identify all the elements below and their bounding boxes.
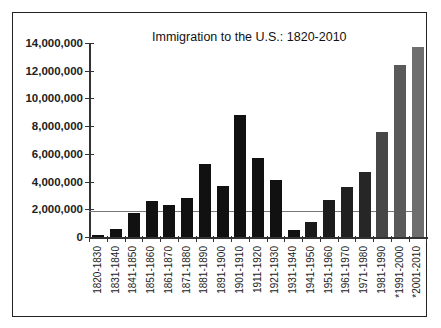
x-tick (196, 236, 197, 242)
x-tick-label: *2001-2010 (411, 246, 422, 298)
x-tick (302, 236, 303, 242)
bar-1931-1940 (288, 230, 300, 237)
y-tick-label: 0 (77, 231, 83, 243)
x-tick-label: 1881-1890 (198, 246, 209, 294)
x-tick (338, 236, 339, 242)
x-tick-label: 1941-1950 (305, 246, 316, 294)
y-tick (85, 126, 94, 127)
x-axis (89, 237, 428, 239)
y-tick-label: 14,000,000 (25, 37, 83, 49)
x-tick (142, 236, 143, 242)
x-tick (391, 236, 392, 242)
x-tick (426, 236, 427, 242)
x-tick (355, 236, 356, 242)
bar-1961-1970 (341, 187, 353, 237)
y-tick-label: 10,000,000 (25, 92, 83, 104)
bar-1921-1930 (270, 180, 282, 237)
y-tick-label: 6,000,000 (32, 148, 83, 160)
y-tick (85, 182, 94, 183)
x-tick (89, 236, 90, 242)
bar-1881-1890 (199, 164, 211, 237)
bar-1971-1980 (359, 172, 371, 237)
x-tick (267, 236, 268, 242)
y-tick (85, 71, 94, 72)
x-tick (125, 236, 126, 242)
x-tick-label: 1820-1830 (92, 246, 103, 294)
x-tick (284, 236, 285, 242)
y-tick (85, 209, 94, 210)
x-tick (373, 236, 374, 242)
y-tick-label: 8,000,000 (32, 120, 83, 132)
x-tick (160, 236, 161, 242)
bar-1861-1870 (163, 205, 175, 237)
x-tick-label: 1971-1980 (358, 246, 369, 294)
x-tick-label: 1861-1870 (163, 246, 174, 294)
chart-title: Immigration to the U.S.: 1820-2010 (152, 30, 347, 44)
bar-1901-1910 (234, 115, 246, 237)
x-tick-label: 1981-1990 (376, 246, 387, 294)
y-tick (85, 98, 94, 99)
bar-1871-1880 (181, 198, 193, 237)
x-tick (249, 236, 250, 242)
x-tick-label: *1991-2000 (394, 246, 405, 298)
x-tick (178, 236, 179, 242)
bar-1951-1960 (323, 200, 335, 237)
x-tick-label: 1951-1960 (323, 246, 334, 294)
y-tick-label: 4,000,000 (32, 176, 83, 188)
x-tick (231, 236, 232, 242)
bar-1941-1950 (305, 222, 317, 237)
y-tick-label: 2,000,000 (32, 203, 83, 215)
x-tick-label: 1961-1970 (340, 246, 351, 294)
bar-1841-1850 (128, 213, 140, 237)
y-tick (85, 43, 94, 44)
bar-1851-1860 (146, 201, 158, 237)
x-tick-label: 1871-1880 (181, 246, 192, 294)
x-tick-label: 1931-1940 (287, 246, 298, 294)
x-tick-label: 1841-1850 (127, 246, 138, 294)
bar-1831-1840 (110, 229, 122, 237)
bar-1991-2000 (394, 65, 406, 237)
x-tick-label: 1831-1840 (110, 246, 121, 294)
y-tick-label: 12,000,000 (25, 65, 83, 77)
bar-2001-2010 (412, 47, 424, 237)
x-tick (213, 236, 214, 242)
y-tick (85, 154, 94, 155)
x-tick (107, 236, 108, 242)
x-tick (409, 236, 410, 242)
x-tick-label: 1921-1930 (269, 246, 280, 294)
x-tick-label: 1891-1900 (216, 246, 227, 294)
bar-1981-1990 (376, 132, 388, 237)
x-tick-label: 1911-1920 (252, 246, 263, 293)
x-tick (320, 236, 321, 242)
bar-1911-1920 (252, 158, 264, 237)
x-tick-label: 1851-1860 (145, 246, 156, 294)
bar-1891-1900 (217, 186, 229, 237)
x-tick-label: 1901-1910 (234, 246, 245, 294)
